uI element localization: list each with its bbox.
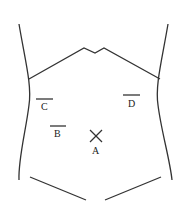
right-flank-outline xyxy=(157,24,172,180)
umbilicus-cross-icon xyxy=(90,130,102,142)
abdomen-diagram: C D B A xyxy=(0,0,187,217)
left-flank-outline xyxy=(19,24,30,180)
label-c: C xyxy=(41,101,48,112)
costal-margin-line xyxy=(29,48,160,79)
left-inguinal-line xyxy=(30,177,86,200)
right-inguinal-line xyxy=(105,177,161,200)
label-a: A xyxy=(92,145,100,156)
label-b: B xyxy=(54,128,61,139)
label-d: D xyxy=(128,98,135,109)
